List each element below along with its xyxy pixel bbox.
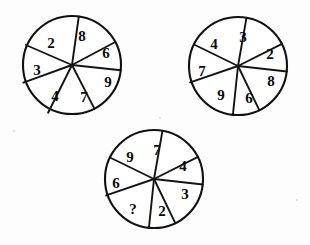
circle-3-group[interactable]: 7 4 3 2 ? 6 9 — [105, 130, 203, 228]
puzzle-canvas: 8 6 9 7 4 3 2 3 2 8 6 9 7 4 — [0, 0, 310, 245]
circle-1-segment-label: 7 — [80, 89, 88, 105]
circle-1-segment-label: 9 — [104, 74, 112, 90]
circle-2-segment-label: 8 — [267, 73, 275, 89]
paper-speck — [13, 130, 15, 132]
circle-2-segment-label: 2 — [266, 46, 274, 62]
circle-3-segment-label: 6 — [112, 175, 120, 191]
circle-3-segment-label: 7 — [153, 142, 161, 158]
circle-2-segment-label: 9 — [217, 87, 225, 103]
circle-1-segment-label: 8 — [78, 28, 86, 44]
circle-2-segment-label: 3 — [239, 29, 247, 45]
circle-3-unknown-label: ? — [129, 201, 137, 217]
circle-3-segment-label: 9 — [126, 149, 134, 165]
circle-1-segment-label: 4 — [51, 88, 59, 104]
circle-3-segment-label: 3 — [181, 186, 189, 202]
circle-2-segment-label: 6 — [245, 90, 253, 106]
circle-2-segment-label: 4 — [210, 36, 218, 52]
circle-2-segment-label: 7 — [198, 63, 206, 79]
circle-2-group[interactable]: 3 2 8 6 9 7 4 — [189, 17, 287, 115]
circle-3-segment-label: 2 — [158, 203, 166, 219]
circle-1-segment-label: 3 — [33, 62, 41, 78]
paper-speck — [296, 199, 298, 201]
number-wheel-figure: 8 6 9 7 4 3 2 3 2 8 6 9 7 4 — [0, 0, 310, 245]
circle-1-segment-label: 2 — [47, 35, 55, 51]
circle-1-group[interactable]: 8 6 9 7 4 3 2 — [23, 16, 121, 114]
circle-1-segment-label: 6 — [102, 45, 110, 61]
circle-3-segment-label: 4 — [179, 158, 187, 174]
paper-speck — [159, 117, 161, 119]
